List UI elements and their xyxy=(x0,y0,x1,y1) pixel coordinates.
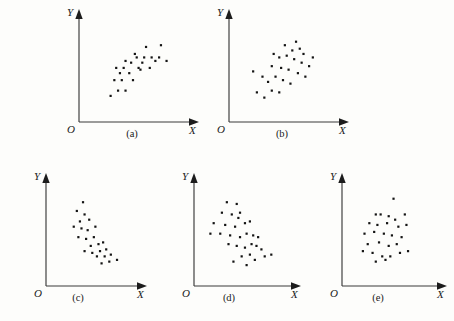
data-point xyxy=(99,250,101,252)
data-point xyxy=(401,236,403,238)
data-point xyxy=(110,254,112,256)
data-point xyxy=(295,41,297,43)
data-point xyxy=(137,67,139,69)
data-point xyxy=(270,254,272,256)
scatter-panel-c: Y X O xyxy=(14,168,154,296)
origin-label-a: O xyxy=(67,123,75,135)
data-point xyxy=(97,243,99,245)
data-point xyxy=(115,67,117,69)
data-point xyxy=(96,255,98,257)
data-point xyxy=(256,91,258,93)
data-point xyxy=(160,44,162,46)
data-point xyxy=(371,252,373,254)
data-point xyxy=(278,56,280,58)
data-point xyxy=(286,55,288,57)
data-point xyxy=(273,53,275,55)
data-point xyxy=(237,217,239,219)
data-point xyxy=(384,259,386,261)
y-axis-label-b: Y xyxy=(217,6,225,18)
data-point xyxy=(121,79,123,81)
data-point xyxy=(123,67,125,69)
data-point xyxy=(391,234,393,236)
y-axis-label-d: Y xyxy=(182,170,190,182)
data-point xyxy=(226,201,228,203)
data-point xyxy=(396,243,398,245)
data-point xyxy=(246,264,248,266)
axes-d xyxy=(190,173,301,290)
data-point xyxy=(93,236,95,238)
data-point xyxy=(128,72,130,74)
data-point xyxy=(136,56,138,58)
data-point xyxy=(80,227,82,229)
data-point xyxy=(124,90,126,92)
data-point xyxy=(261,76,263,78)
data-point xyxy=(389,255,391,257)
scatter-plot-a: Y X O xyxy=(62,4,202,132)
data-point xyxy=(100,262,102,264)
data-point xyxy=(312,56,314,58)
data-point xyxy=(232,261,234,263)
data-point xyxy=(104,255,106,257)
data-point xyxy=(76,210,78,212)
data-point xyxy=(407,250,409,252)
data-point xyxy=(117,90,119,92)
data-point xyxy=(376,224,378,226)
y-axis-label-a: Y xyxy=(67,6,75,18)
data-point xyxy=(308,65,310,67)
data-point xyxy=(255,245,257,247)
data-point xyxy=(244,222,246,224)
data-point xyxy=(108,261,110,263)
data-point xyxy=(209,233,211,235)
y-axis-arrow-e xyxy=(338,173,345,183)
data-point xyxy=(252,70,254,72)
panel-caption-e: (e) xyxy=(358,292,398,303)
data-point xyxy=(87,229,89,231)
scatter-plot-e: Y X O xyxy=(314,168,454,296)
data-point xyxy=(287,69,289,71)
data-point xyxy=(252,234,254,236)
data-point xyxy=(141,62,143,64)
data-point xyxy=(399,252,401,254)
data-point xyxy=(392,198,394,200)
x-axis-label-a: X xyxy=(188,124,197,136)
panel-caption-d: (d) xyxy=(209,292,249,303)
x-axis-label-b: X xyxy=(338,124,347,136)
data-point xyxy=(154,60,156,62)
scatter-panel-d: Y X O xyxy=(164,168,309,296)
data-point xyxy=(244,247,246,249)
x-axis-label-c: X xyxy=(136,288,145,300)
x-axis-label-e: X xyxy=(436,288,445,300)
data-point xyxy=(221,212,223,214)
data-point xyxy=(236,203,238,205)
data-point xyxy=(280,67,282,69)
data-point xyxy=(386,222,388,224)
data-point xyxy=(158,56,160,58)
data-point xyxy=(90,245,92,247)
data-point xyxy=(79,220,81,222)
data-point xyxy=(102,241,104,243)
data-point xyxy=(213,222,215,224)
data-point xyxy=(394,219,396,221)
scatter-plot-c: Y X O xyxy=(14,168,154,296)
data-point xyxy=(293,58,295,60)
data-point xyxy=(105,248,107,250)
data-point xyxy=(278,91,280,93)
origin-label-d: O xyxy=(182,287,190,299)
data-point xyxy=(151,56,153,58)
scatter-plot-b: Y X O xyxy=(212,4,352,132)
axes-a xyxy=(75,9,199,126)
y-axis-arrow-c xyxy=(42,173,49,183)
data-point xyxy=(236,245,238,247)
axes-b xyxy=(225,9,349,126)
figure-canvas: Y X O (a) Y X O (b) xyxy=(0,0,454,321)
data-point xyxy=(375,213,377,215)
data-point xyxy=(381,255,383,257)
scatter-panel-a: Y X O xyxy=(62,4,202,132)
data-point xyxy=(119,72,121,74)
origin-label-e: O xyxy=(330,287,338,299)
y-axis-arrow-a xyxy=(75,9,82,19)
data-point xyxy=(249,254,251,256)
data-point xyxy=(149,67,151,69)
data-point xyxy=(397,226,399,228)
data-points-a xyxy=(110,44,168,97)
